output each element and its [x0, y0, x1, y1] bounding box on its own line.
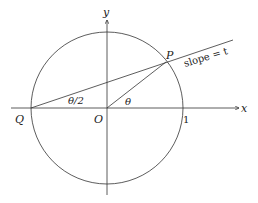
half-angle-label: θ/2	[68, 95, 84, 106]
radius-op	[107, 62, 166, 108]
secant-line	[31, 40, 233, 108]
origin-label: O	[94, 113, 103, 126]
center-angle-label: θ	[125, 96, 131, 107]
point-q-label: Q	[15, 113, 24, 126]
diagram-canvas: y x P slope = t θ/2 θ Q O 1	[0, 0, 258, 203]
y-axis-label: y	[102, 6, 110, 19]
slope-label: slope = t	[182, 45, 229, 69]
x-axis-label: x	[241, 102, 248, 115]
point-p-label: P	[165, 49, 174, 62]
unit-tick-label: 1	[183, 114, 189, 125]
